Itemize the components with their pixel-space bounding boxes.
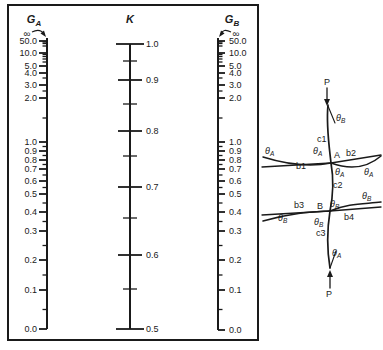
diagram-label: c2 bbox=[333, 180, 343, 190]
tick-label: 0.7 bbox=[229, 164, 242, 174]
diagram-label: θB bbox=[278, 213, 288, 224]
tick-label: 3.0 bbox=[229, 80, 242, 90]
diagram-label: b4 bbox=[344, 212, 354, 222]
tick-label: 1.0 bbox=[146, 39, 159, 49]
diagram-label: θA bbox=[364, 167, 373, 178]
tick-label: 0.5 bbox=[146, 324, 159, 334]
diagram-label: θB bbox=[330, 199, 340, 210]
diagram-label-subscript: A bbox=[339, 171, 344, 178]
infinity-arrowhead bbox=[219, 31, 225, 38]
column-diagram: PθBc1θAθAAb2b1θAθAc2θBb3BθBθBθBb4c3θAP bbox=[262, 77, 381, 299]
diagram-label: b2 bbox=[346, 148, 356, 158]
diagram-label-text: c2 bbox=[333, 180, 343, 190]
scale-gb: 50.010.05.04.03.02.01.00.90.80.70.60.50.… bbox=[218, 28, 247, 335]
diagram-label-subscript: B bbox=[367, 195, 372, 202]
scale-k: 1.00.90.80.70.60.5 bbox=[116, 39, 159, 334]
diagram-label-text: B bbox=[317, 201, 323, 211]
tick-label: 0.0 bbox=[24, 324, 37, 334]
tick-label: 0.6 bbox=[24, 176, 37, 186]
diagram-label-subscript: A bbox=[317, 150, 322, 157]
diagram-label: θA bbox=[313, 146, 322, 157]
scale-header-k-main: K bbox=[126, 13, 134, 25]
diagram-label-subscript: B bbox=[335, 203, 340, 210]
diagram-label: P bbox=[324, 77, 330, 87]
diagram-label: A bbox=[334, 150, 340, 160]
tick-label: 0.2 bbox=[24, 255, 37, 265]
diagram-label-subscript: B bbox=[319, 221, 324, 228]
tick-label: 0.3 bbox=[24, 226, 37, 236]
tick-label: 4.0 bbox=[24, 68, 37, 78]
diagram-label: B bbox=[317, 201, 323, 211]
column-segment-c1 bbox=[327, 105, 331, 163]
diagram-label-text: b4 bbox=[344, 212, 354, 222]
diagram-label-text: c3 bbox=[316, 228, 326, 238]
diagram-label-text: P bbox=[324, 77, 330, 87]
tick-label: 0.4 bbox=[24, 207, 37, 217]
tick-label: 0.3 bbox=[229, 226, 242, 236]
load-arrowhead-down bbox=[324, 99, 330, 106]
diagram-label: θA bbox=[265, 146, 274, 157]
scale-ga: 50.010.05.04.03.02.01.00.90.80.70.60.50.… bbox=[19, 28, 47, 334]
diagram-label: θB bbox=[336, 113, 346, 124]
tick-label: 3.0 bbox=[24, 80, 37, 90]
tick-label: 0.6 bbox=[229, 176, 242, 186]
tick-label: 0.0 bbox=[229, 325, 242, 335]
scale-header-ga-sub: A bbox=[35, 19, 41, 28]
diagram-label: P bbox=[326, 289, 332, 299]
column-segment-c3 bbox=[328, 211, 330, 268]
diagram-label-text: b2 bbox=[346, 148, 356, 158]
tick-label: 2.0 bbox=[24, 93, 37, 103]
tick-label: 0.9 bbox=[146, 75, 159, 85]
diagram-label-subscript: A bbox=[368, 171, 373, 178]
diagram-label: b1 bbox=[296, 161, 306, 171]
diagram-label-text: b1 bbox=[296, 161, 306, 171]
tick-label: 0.7 bbox=[24, 164, 37, 174]
diagram-label: θB bbox=[362, 191, 372, 202]
tick-label: 0.1 bbox=[24, 285, 37, 295]
diagram-label-text: c1 bbox=[317, 134, 327, 144]
tick-label: 0.5 bbox=[229, 189, 242, 199]
tick-label: 2.0 bbox=[229, 93, 242, 103]
diagram-label-subscript: B bbox=[341, 117, 346, 124]
diagram-label-subscript: A bbox=[269, 150, 274, 157]
load-arrowhead-up bbox=[327, 270, 333, 277]
tick-label: 10.0 bbox=[19, 48, 37, 58]
scale-header-gb-sub: B bbox=[233, 19, 239, 28]
scale-header-ga: GA bbox=[19, 13, 49, 28]
diagram-label: c3 bbox=[316, 228, 326, 238]
diagram-label: c1 bbox=[317, 134, 327, 144]
diagram-label-text: A bbox=[334, 150, 340, 160]
tick-label: 0.4 bbox=[229, 207, 242, 217]
infinity-label: ∞ bbox=[24, 28, 31, 39]
diagram-label-subscript: B bbox=[283, 217, 288, 224]
tick-label: 0.8 bbox=[146, 126, 159, 136]
tick-label: 0.7 bbox=[146, 182, 159, 192]
diagram-label: θA bbox=[332, 248, 341, 259]
scale-header-k: K bbox=[116, 13, 144, 28]
diagram-label-subscript: A bbox=[336, 252, 341, 259]
scale-header-gb: GB bbox=[217, 13, 247, 28]
alignment-chart-figure: 50.010.05.04.03.02.01.00.90.80.70.60.50.… bbox=[0, 0, 383, 350]
diagram-label: θA bbox=[335, 167, 344, 178]
tick-label: 0.5 bbox=[24, 189, 37, 199]
infinity-label: ∞ bbox=[233, 28, 240, 39]
tick-label: 0.6 bbox=[146, 250, 159, 260]
diagram-label-text: b3 bbox=[294, 200, 304, 210]
tick-label: 0.2 bbox=[229, 255, 242, 265]
tick-label: 10.0 bbox=[229, 48, 247, 58]
chart-canvas: 50.010.05.04.03.02.01.00.90.80.70.60.50.… bbox=[0, 0, 383, 350]
tick-label: 0.1 bbox=[229, 285, 242, 295]
diagram-label: b3 bbox=[294, 200, 304, 210]
tick-label: 4.0 bbox=[229, 68, 242, 78]
diagram-label-text: P bbox=[326, 289, 332, 299]
tangent-dash-top bbox=[328, 106, 335, 123]
diagram-label: θB bbox=[314, 217, 324, 228]
